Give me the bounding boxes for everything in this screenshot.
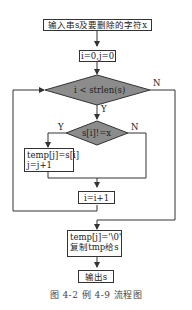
loop-condition-label: i < strlen(s) (74, 85, 125, 95)
loop-no-label: N (153, 78, 160, 88)
figure-caption: 图 4-2 例 4-9 流程图 (0, 288, 192, 301)
finish-line-2: 复制tmp给s (70, 242, 119, 252)
loop-yes-label: Y (101, 104, 107, 114)
input-node: 输入串s及要删除的字符x (43, 19, 152, 31)
increment-node: i=i+1 (78, 191, 115, 204)
copy-node: temp[j]=s[i] j=j+1 (24, 148, 74, 172)
finish-node: temp[j]='\0' 复制tmp给s (67, 230, 122, 257)
copy-line-2: j=j+1 (27, 160, 71, 170)
init-node: i=0,j=0 (79, 50, 116, 62)
output-node: 输出s (78, 270, 114, 283)
char-condition-label: s[i]!=x (82, 128, 111, 138)
finish-line-1: temp[j]='\0' (70, 232, 119, 242)
char-no-label: N (131, 122, 138, 132)
char-yes-label: Y (58, 122, 64, 132)
copy-line-1: temp[j]=s[i] (27, 150, 71, 160)
